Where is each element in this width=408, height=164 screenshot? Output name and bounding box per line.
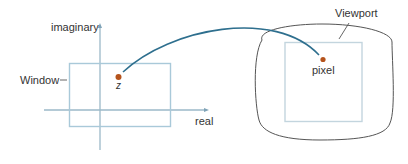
pixel-label: pixel (312, 65, 335, 76)
real-axis-arrow-icon (204, 108, 209, 112)
point-z-label: z (116, 81, 121, 91)
viewport-rectangle (285, 43, 362, 122)
mapping-arc (123, 28, 319, 72)
window-to-viewport-diagram: imaginary real Window z Viewport pixel (0, 0, 408, 164)
window-rectangle (70, 64, 171, 127)
window-label: Window (20, 75, 59, 86)
pixel-point (320, 57, 325, 62)
screen-outline (255, 24, 393, 140)
viewport-leader-line (339, 23, 349, 39)
viewport-label: Viewport (335, 8, 378, 19)
imaginary-axis-label: imaginary (51, 22, 99, 33)
real-axis-label: real (195, 116, 213, 127)
